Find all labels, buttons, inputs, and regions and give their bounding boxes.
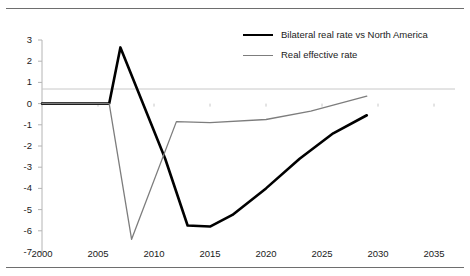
y-tick-label: 0 — [10, 99, 32, 109]
series-line-bilateral-real-rate-vs-north-america — [42, 47, 367, 226]
series-line-real-effective-rate — [42, 96, 367, 239]
y-tick-label: 3 — [10, 35, 32, 45]
y-tick-marks — [38, 40, 42, 252]
y-tick-label: -4 — [10, 183, 32, 193]
x-tick-label: 2015 — [190, 249, 230, 259]
x-tick-label: 2035 — [414, 249, 454, 259]
x-tick-label: 2030 — [358, 249, 398, 259]
y-tick-label: -5 — [10, 205, 32, 215]
x-tick-label: 2025 — [302, 249, 342, 259]
x-tick-label: 2000 — [22, 249, 62, 259]
legend-line-bilateral-icon — [243, 34, 273, 36]
legend-item-effective: Real effective rate — [243, 45, 463, 65]
legend-label-bilateral: Bilateral real rate vs North America — [281, 30, 428, 40]
chart-legend: Bilateral real rate vs North America Rea… — [243, 25, 463, 65]
legend-line-effective-icon — [243, 55, 273, 56]
y-tick-label: -3 — [10, 162, 32, 172]
y-tick-label: 1 — [10, 77, 32, 87]
y-tick-label: 2 — [10, 56, 32, 66]
legend-label-effective: Real effective rate — [281, 50, 357, 60]
x-tick-label: 2020 — [246, 249, 286, 259]
x-tick-label: 2005 — [78, 249, 118, 259]
x-tick-label: 2010 — [134, 249, 174, 259]
chart-container: 3210-1-2-3-4-5-6-7 200020052010201520202… — [0, 0, 470, 276]
y-tick-label: -1 — [10, 120, 32, 130]
data-series-group — [42, 47, 367, 239]
y-tick-label: -2 — [10, 141, 32, 151]
y-axis — [38, 40, 42, 252]
legend-item-bilateral: Bilateral real rate vs North America — [243, 25, 463, 45]
y-tick-label: -6 — [10, 226, 32, 236]
